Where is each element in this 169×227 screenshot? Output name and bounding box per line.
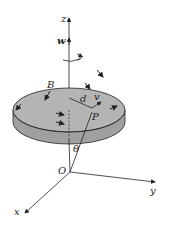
P-label: P: [91, 111, 99, 122]
y-label: y: [149, 185, 156, 196]
v-label: v: [94, 91, 100, 102]
x-axis: [25, 172, 70, 213]
B-label: B: [46, 79, 54, 90]
d-label: d: [80, 93, 86, 104]
w-label: w: [57, 35, 66, 46]
b-field-arrow: [85, 83, 90, 89]
z-axis-lower: [69, 140, 70, 172]
z-label: z: [60, 13, 67, 24]
theta-label: θ: [73, 143, 79, 154]
edge-arrow: [97, 70, 103, 77]
rotating-disk-diagram: z w B d v P θ O x y: [0, 0, 169, 227]
x-label: x: [14, 206, 20, 217]
y-axis: [70, 172, 155, 182]
O-label: O: [58, 165, 66, 176]
